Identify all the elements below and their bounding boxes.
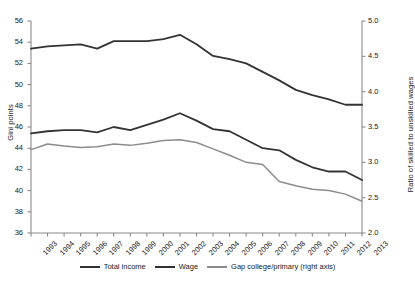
legend-label: Gap college/primary (right axis): [231, 262, 335, 271]
legend-swatch-icon: [207, 266, 227, 268]
chart-container: Gini points Ratio of skilled to unskille…: [0, 0, 415, 288]
plot-area: [0, 0, 415, 288]
series-line-0: [31, 35, 362, 105]
legend-label: Wage: [179, 262, 198, 271]
legend-swatch-icon: [155, 266, 175, 268]
chart-legend: Total incomeWageGap college/primary (rig…: [0, 262, 415, 271]
series-line-1: [31, 113, 362, 180]
series-line-2: [31, 140, 362, 201]
legend-label: Total income: [104, 262, 146, 271]
legend-item[interactable]: Gap college/primary (right axis): [207, 262, 335, 271]
legend-item[interactable]: Wage: [155, 262, 198, 271]
legend-item[interactable]: Total income: [80, 262, 146, 271]
legend-swatch-icon: [80, 266, 100, 268]
